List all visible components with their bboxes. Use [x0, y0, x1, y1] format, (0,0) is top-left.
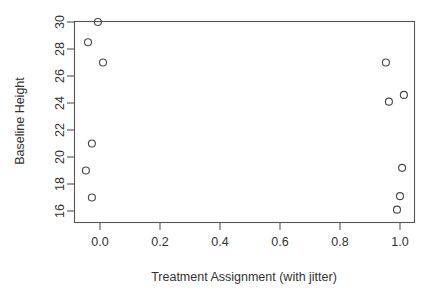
x-tick-label-0.4: 0.4 [211, 235, 228, 249]
x-tick-label-0.0: 0.0 [91, 235, 108, 249]
y-tick-label-24: 24 [53, 96, 67, 110]
data-point [100, 59, 107, 66]
y-axis-tick-labels: 1618202224262830 [53, 15, 67, 218]
data-point [88, 194, 95, 201]
plot-canvas: 1618202224262830 0.00.20.40.60.81.0 Trea… [0, 0, 432, 294]
y-tick-label-16: 16 [53, 204, 67, 218]
data-point [385, 98, 392, 105]
data-point [85, 39, 92, 46]
data-point [382, 59, 389, 66]
data-point [397, 193, 404, 200]
y-tick-label-22: 22 [53, 123, 67, 137]
y-axis-title: Baseline Height [13, 77, 27, 165]
y-tick-label-20: 20 [53, 150, 67, 164]
plot-frame [75, 22, 415, 223]
data-point [400, 91, 407, 98]
data-point [88, 140, 95, 147]
data-point-series [82, 19, 407, 214]
y-tick-label-26: 26 [53, 69, 67, 83]
x-tick-label-0.8: 0.8 [331, 235, 348, 249]
x-tick-label-0.2: 0.2 [151, 235, 168, 249]
y-tick-label-18: 18 [53, 177, 67, 191]
data-point [82, 167, 89, 174]
x-axis-ticks [100, 223, 400, 231]
x-axis-title: Treatment Assignment (with jitter) [151, 270, 337, 284]
data-point [394, 206, 401, 213]
x-axis-tick-labels: 0.00.20.40.60.81.0 [91, 235, 408, 249]
x-tick-label-0.6: 0.6 [271, 235, 288, 249]
data-point [399, 164, 406, 171]
y-axis-ticks [67, 22, 75, 211]
x-tick-label-1.0: 1.0 [391, 235, 408, 249]
y-tick-label-30: 30 [53, 15, 67, 29]
y-tick-label-28: 28 [53, 42, 67, 56]
scatter-plot-figure: 1618202224262830 0.00.20.40.60.81.0 Trea… [0, 0, 432, 294]
